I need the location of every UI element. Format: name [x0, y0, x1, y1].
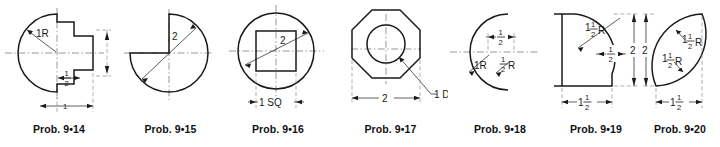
drawing-prob-9-20: 1 1 2 R 1 1 2 R 2 — [640, 0, 720, 120]
drawing-prob-9-17: 1 DIA 2 — [333, 0, 448, 120]
dim-fillet-numerator: 1 — [591, 20, 595, 29]
dim-upper-radius-suffix: R — [695, 37, 702, 48]
upper-radius-arrowhead — [676, 30, 682, 35]
figure-prob-9-15: 2 Prob. 9•15 — [118, 0, 223, 147]
dim-half-numerator: 1 — [65, 69, 69, 78]
dim-width-numerator: 1 — [677, 93, 681, 102]
dim-width-label: 2 — [382, 93, 388, 104]
dim-square-label: 1 SQ — [259, 97, 282, 108]
dim-height-arrow-top — [644, 14, 648, 22]
dim-square-arrow-left — [250, 100, 256, 105]
dim-width-arrow-left — [562, 100, 568, 105]
dim-vertical-arrow-top — [105, 32, 109, 40]
figure-prob-9-19: 1 1 2 R 1 2 2 — [552, 0, 640, 147]
dim-hole-label: 1 DIA — [434, 89, 448, 100]
dim-flat-denominator: 2 — [609, 55, 613, 64]
caption-prob-9-14: Prob. 9•14 — [0, 123, 118, 135]
dim-radius-label: 1R — [36, 28, 49, 39]
dim-bottom-arrow-right — [87, 104, 93, 109]
drawing-prob-9-14: 1R 1 2 1 — [0, 0, 118, 120]
dim-upper-radius-denominator: 2 — [688, 42, 692, 51]
problem-figure-strip: 1R 1 2 1 Prob. 9•14 — [0, 0, 720, 147]
diameter-arrow-left — [245, 63, 251, 68]
dim-bottom-label: 1 — [63, 102, 67, 111]
dim-flat-numerator: 1 — [609, 45, 613, 54]
dim-offset-denominator: 2 — [499, 38, 503, 47]
drawing-prob-9-15: 2 — [118, 0, 223, 120]
dim-height-label: 2 — [630, 45, 636, 56]
dim-inner-radius-denominator: 2 — [501, 65, 505, 74]
caption-prob-9-17: Prob. 9•17 — [333, 123, 448, 135]
dim-lower-radius-denominator: 2 — [668, 61, 672, 70]
dim-width-numerator: 1 — [585, 93, 589, 102]
dim-offset-arrow-right — [508, 35, 514, 40]
dim-width-whole: 1 — [578, 97, 584, 108]
dim-width-arrow-left — [656, 100, 662, 105]
dia-arrowhead — [399, 57, 405, 63]
dim-half-denominator: 2 — [65, 79, 69, 88]
diameter-leader — [245, 33, 308, 65]
dim-fillet-denominator: 2 — [591, 30, 595, 39]
dim-width-arrow-right — [696, 100, 702, 105]
caption-prob-9-18: Prob. 9•18 — [448, 123, 552, 135]
dim-offset-arrow-left — [488, 35, 494, 40]
lower-radius-arrowhead — [678, 68, 684, 73]
dim-square-arrow-right — [296, 100, 302, 105]
dim-width-denominator: 2 — [585, 103, 589, 112]
dim-inner-radius-suffix: R — [508, 60, 515, 71]
dim-fillet-suffix: R — [598, 25, 605, 36]
drawing-prob-9-18: 1R 1 2 1 2 R — [448, 0, 552, 120]
dim-inner-radius-numerator: 1 — [501, 55, 505, 64]
dim-offset-numerator: 1 — [499, 28, 503, 37]
dim-width-denominator: 2 — [677, 103, 681, 112]
dim-width-arrow-left — [352, 96, 358, 101]
dim-flat-arrow-right — [618, 52, 624, 57]
dim-width-whole: 1 — [670, 97, 676, 108]
figure-prob-9-14: 1R 1 2 1 Prob. 9•14 — [0, 0, 118, 147]
figure-prob-9-17: 1 DIA 2 Prob. 9•17 — [333, 0, 448, 147]
dim-height-arrow-top — [632, 14, 636, 22]
outline-lens — [652, 14, 706, 86]
dim-bottom-arrow-left — [40, 104, 46, 109]
caption-prob-9-19: Prob. 9•19 — [552, 123, 640, 135]
dim-lower-radius-numerator: 1 — [668, 51, 672, 60]
dim-outer-radius-label: 1R — [474, 60, 487, 71]
dim-height-arrow-bottom — [644, 78, 648, 86]
diameter-arrow-right — [302, 30, 308, 35]
dim-flat-arrow-left — [598, 52, 604, 57]
dim-vertical-arrow-bottom — [105, 66, 109, 74]
dim-width-arrow-right — [606, 100, 612, 105]
figure-prob-9-18: 1R 1 2 1 2 R Prob. 9•18 — [448, 0, 552, 147]
dim-height-label: 2 — [642, 45, 648, 56]
figure-prob-9-16: 2 1 SQ Prob. 9•16 — [223, 0, 333, 147]
dim-height-arrow-bottom — [632, 78, 636, 86]
dim-diameter-label: 2 — [280, 35, 286, 46]
dim-width-arrow-right — [414, 96, 420, 101]
dim-lower-radius-suffix: R — [675, 56, 682, 67]
dim-upper-radius-numerator: 1 — [688, 32, 692, 41]
outline-crescent — [470, 14, 508, 90]
caption-prob-9-16: Prob. 9•16 — [223, 123, 333, 135]
dim-diameter-label: 2 — [172, 31, 178, 42]
drawing-prob-9-16: 2 1 SQ — [223, 0, 333, 120]
caption-prob-9-15: Prob. 9•15 — [118, 123, 223, 135]
figure-prob-9-20: 1 1 2 R 1 1 2 R 2 — [640, 0, 720, 147]
caption-prob-9-20: Prob. 9•20 — [640, 123, 720, 135]
drawing-prob-9-19: 1 1 2 R 1 2 2 — [552, 0, 640, 120]
